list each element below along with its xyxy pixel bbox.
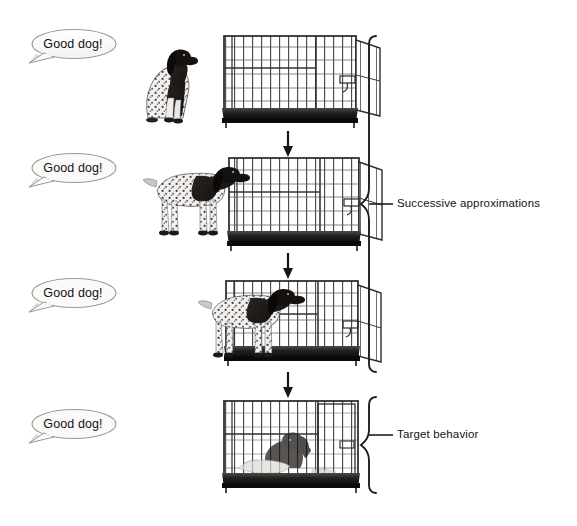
illustration-layer <box>0 0 577 526</box>
speech-bubble-row-3: Good dog! <box>28 277 118 313</box>
bracket-target-behavior <box>361 397 376 493</box>
dog-row-1 <box>146 48 198 123</box>
arrow-1-to-2 <box>283 131 293 157</box>
speech-text-row-4: Good dog! <box>28 408 118 440</box>
label-successive-approximations: Successive approximations <box>397 197 540 209</box>
speech-text-row-2: Good dog! <box>28 152 118 184</box>
crate-row-1 <box>222 36 380 128</box>
label-target-behavior: Target behavior <box>397 428 479 440</box>
speech-bubble-row-1: Good dog! <box>28 28 118 64</box>
arrow-2-to-3 <box>283 253 293 279</box>
speech-bubble-row-2: Good dog! <box>28 152 118 188</box>
crate-row-2 <box>227 158 382 251</box>
crate-row-4 <box>222 401 360 493</box>
speech-text-row-3: Good dog! <box>28 277 118 309</box>
speech-text-row-1: Good dog! <box>28 28 118 60</box>
figure-canvas: Good dog! Good dog! Good dog! Good dog! … <box>0 0 577 526</box>
arrow-3-to-4 <box>283 372 293 398</box>
speech-bubble-row-4: Good dog! <box>28 408 118 444</box>
